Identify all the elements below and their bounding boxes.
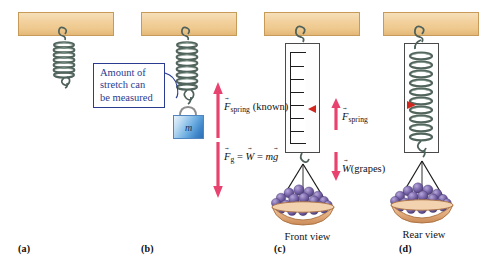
- weight-symbol-W-grapes: W: [342, 163, 351, 174]
- physics-figure-spring-scale: (a): [0, 0, 492, 275]
- panel-b: m Amount of stretch can be measured Fspr…: [123, 0, 246, 275]
- callout-stretch-measured: Amount of stretch can be measured: [93, 63, 165, 108]
- panel-d: Rear view (d): [369, 0, 492, 275]
- force-symbol-F-spring: F: [224, 101, 230, 112]
- weight-suffix-grapes: (grapes): [351, 163, 385, 174]
- force-symbol-F-spring-c: F: [342, 111, 348, 122]
- panel-c: Front view Fspring W(grapes) (c): [246, 0, 369, 275]
- force-label-weight-grapes: W(grapes): [342, 163, 385, 174]
- force-arrow-gravity-down-b: [123, 0, 246, 275]
- panel-a: (a): [0, 0, 123, 275]
- spring-relaxed-a: [0, 0, 123, 275]
- force-label-spring-c: Fspring: [342, 111, 368, 124]
- force-symbol-F-g: F: [224, 151, 230, 162]
- force-arrow-spring-up-c: [246, 0, 369, 275]
- scale-reading-marker-d: [407, 101, 416, 109]
- equals-sign-1: =: [234, 151, 245, 162]
- force-subscript-spring-c: spring: [348, 115, 368, 124]
- grape-basket-d: [369, 0, 492, 275]
